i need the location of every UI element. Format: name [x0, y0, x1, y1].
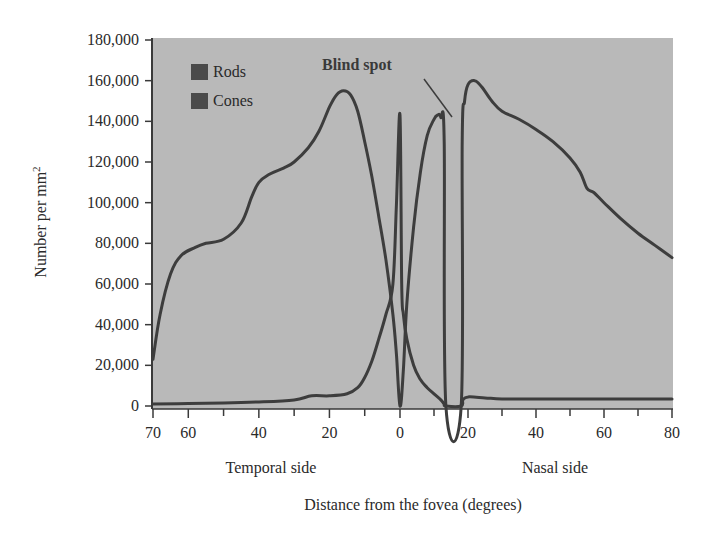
blind-spot-label: Blind spot	[322, 56, 392, 74]
rods-cones-density-chart: 020,00040,00060,00080,000100,000120,0001…	[0, 0, 711, 541]
y-tick-label: 120,000	[87, 153, 139, 170]
legend-swatch-rods	[191, 64, 208, 80]
x-tick-label: 60	[180, 424, 196, 441]
x-tick-label: 20	[460, 424, 476, 441]
legend-label-cones: Cones	[213, 92, 253, 109]
y-tick-label: 20,000	[95, 356, 139, 373]
temporal-side-label: Temporal side	[226, 459, 317, 477]
x-axis: 70604020020406080	[145, 409, 680, 441]
x-axis-title: Distance from the fovea (degrees)	[304, 496, 522, 514]
y-tick-label: 60,000	[95, 275, 139, 292]
x-tick-label: 20	[321, 424, 337, 441]
x-tick-label: 0	[396, 424, 404, 441]
y-tick-label: 100,000	[87, 194, 139, 211]
x-tick-label: 80	[664, 424, 680, 441]
x-tick-label: 70	[145, 424, 161, 441]
y-tick-label: 160,000	[87, 72, 139, 89]
legend-label-rods: Rods	[213, 63, 246, 80]
y-tick-label: 140,000	[87, 112, 139, 129]
nasal-side-label: Nasal side	[522, 459, 588, 476]
y-tick-label: 180,000	[87, 31, 139, 48]
y-tick-label: 0	[131, 397, 139, 414]
legend-swatch-cones	[191, 93, 208, 109]
y-axis-title: Number per mm2	[30, 166, 50, 277]
y-axis: 020,00040,00060,00080,000100,000120,0001…	[87, 31, 152, 414]
x-tick-label: 60	[596, 424, 612, 441]
x-tick-label: 40	[528, 424, 544, 441]
x-tick-label: 40	[251, 424, 267, 441]
y-tick-label: 40,000	[95, 316, 139, 333]
y-tick-label: 80,000	[95, 234, 139, 251]
